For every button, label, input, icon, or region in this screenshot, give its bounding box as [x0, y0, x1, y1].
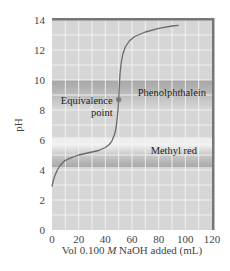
equivalence-point-marker [116, 97, 121, 102]
x-label-part: Vol 0.100 [62, 244, 107, 256]
annotation-line-2: point [91, 107, 113, 118]
titration-chart: PhenolphthaleinMethyl red Equivalencepoi… [0, 0, 230, 271]
annotation-line-1: Equivalence [61, 95, 113, 106]
band-label-methyl-red: Methyl red [151, 145, 198, 156]
y-tick-label: 14 [34, 14, 46, 26]
y-tick-label: 10 [34, 74, 46, 86]
y-tick-label: 6 [40, 134, 46, 146]
y-tick-label: 2 [40, 194, 46, 206]
band-label-phenolphthalein: Phenolphthalein [138, 87, 207, 98]
top-border [52, 18, 214, 21]
y-tick-label: 8 [40, 104, 46, 116]
y-tick-label: 12 [34, 44, 45, 56]
x-axis-label: Vol 0.100 M NaOH added (mL) [62, 244, 203, 257]
x-tick-label: 0 [49, 233, 55, 245]
y-tick-label: 4 [40, 164, 46, 176]
y-axis-ticks: 02468101214 [34, 14, 46, 236]
right-border [212, 18, 215, 230]
x-tick-label: 120 [204, 233, 221, 245]
y-axis-label: pH [12, 118, 24, 132]
x-label-part: NaOH added (mL) [116, 244, 202, 257]
y-tick-label: 0 [40, 224, 46, 236]
